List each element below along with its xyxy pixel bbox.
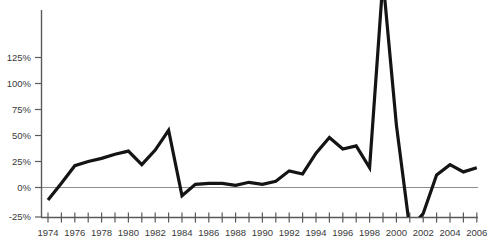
x-tick-label-1984: 1984 <box>171 227 192 238</box>
x-tick-label-1980: 1980 <box>118 227 139 238</box>
x-tick-label-2006: 2006 <box>466 227 487 238</box>
chart-screenshot: 125% 100% 75% 50% 25% 0% -25% <box>0 0 490 250</box>
chart-svg: 125% 100% 75% 50% 25% 0% -25% <box>0 0 490 250</box>
x-tick-label-1976: 1976 <box>64 227 85 238</box>
chart-background <box>0 0 490 250</box>
x-tick-label-1996: 1996 <box>332 227 353 238</box>
y-tick-label-50: 50% <box>12 130 32 141</box>
y-tick-label-125: 125% <box>7 52 32 63</box>
x-tick-label-2002: 2002 <box>413 227 434 238</box>
x-tick-label-1986: 1986 <box>198 227 219 238</box>
y-tick-label-neg25: -25% <box>9 211 32 222</box>
x-tick-label-2000: 2000 <box>386 227 407 238</box>
y-tick-label-25: 25% <box>12 156 32 167</box>
x-tick-label-2004: 2004 <box>439 227 460 238</box>
x-tick-label-1982: 1982 <box>145 227 166 238</box>
x-tick-label-1990: 1990 <box>252 227 273 238</box>
x-tick-label-1994: 1994 <box>305 227 326 238</box>
y-tick-label-75: 75% <box>12 104 32 115</box>
line-chart-figure: 125% 100% 75% 50% 25% 0% -25% <box>0 0 490 250</box>
x-axis-tick-labels: 1974 1976 1978 1980 1982 1984 1986 1988 … <box>37 227 487 238</box>
x-tick-label-1988: 1988 <box>225 227 246 238</box>
x-tick-label-1974: 1974 <box>37 227 58 238</box>
y-tick-label-100: 100% <box>7 78 32 89</box>
x-tick-label-1978: 1978 <box>91 227 112 238</box>
x-tick-label-1992: 1992 <box>279 227 300 238</box>
y-tick-label-0: 0% <box>17 182 31 193</box>
x-tick-label-1998: 1998 <box>359 227 380 238</box>
